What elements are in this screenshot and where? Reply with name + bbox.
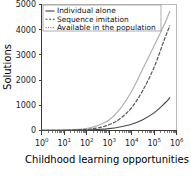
y-tick-label-2000: 2000 — [16, 76, 36, 85]
figure-container: 0 1000 2000 3000 4000 5000 Solutions — [0, 0, 191, 177]
svg-text:10: 10 — [170, 139, 180, 148]
legend-item-available-in-the-population[interactable]: Available in the population — [46, 23, 157, 32]
x-tick-label-1e0: 10 0 — [35, 137, 49, 149]
svg-text:10: 10 — [57, 139, 67, 148]
svg-text:10: 10 — [102, 139, 112, 148]
x-tick-label-1e3: 10 3 — [102, 137, 116, 149]
y-tick-label-3000: 3000 — [16, 51, 36, 60]
x-tick-label-1e6: 10 6 — [170, 137, 184, 149]
x-tick-label-1e4: 10 4 — [125, 137, 139, 149]
svg-text:6: 6 — [180, 137, 184, 143]
svg-text:0: 0 — [45, 137, 49, 143]
y-tick-label-5000: 5000 — [16, 0, 36, 9]
x-tick-label-1e1: 10 1 — [57, 137, 71, 149]
x-tick-label-1e5: 10 5 — [147, 137, 161, 149]
svg-text:1: 1 — [68, 137, 72, 143]
x-axis-title: Childhood learning opportunities — [25, 154, 189, 165]
svg-text:3: 3 — [113, 137, 117, 143]
legend: Individual alone Sequence imitation Avai… — [43, 5, 161, 32]
x-axis: 10 0 10 1 10 2 10 3 10 4 10 5 — [25, 131, 189, 166]
svg-text:2: 2 — [90, 137, 94, 143]
legend-label-2: Available in the population — [57, 23, 156, 32]
svg-text:5: 5 — [158, 137, 162, 143]
x-tick-label-1e2: 10 2 — [80, 137, 94, 149]
svg-text:10: 10 — [35, 139, 45, 148]
svg-text:10: 10 — [80, 139, 90, 148]
svg-text:10: 10 — [125, 139, 135, 148]
svg-text:4: 4 — [135, 137, 139, 143]
y-axis-title: Solutions — [2, 44, 13, 90]
chart-svg: 0 1000 2000 3000 4000 5000 Solutions — [0, 0, 191, 177]
y-tick-label-4000: 4000 — [16, 26, 36, 35]
y-axis: 0 1000 2000 3000 4000 5000 Solutions — [2, 0, 42, 135]
svg-text:10: 10 — [147, 139, 157, 148]
y-tick-label-0: 0 — [31, 126, 36, 135]
y-tick-label-1000: 1000 — [16, 101, 36, 110]
